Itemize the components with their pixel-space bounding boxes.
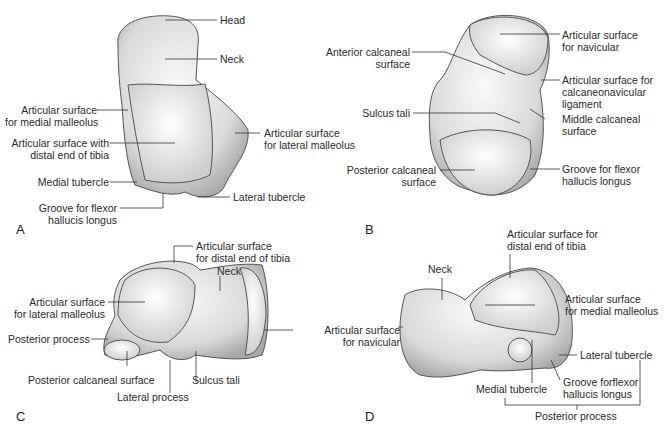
bone-view-a xyxy=(118,16,248,197)
label-d-posterior-process: Posterior process xyxy=(535,410,617,422)
label-sulcus-tali: Sulcus tali xyxy=(310,107,410,119)
label-calcaneonavicular: Articular surface for calcaneonavicular … xyxy=(562,74,653,110)
talus-diagram: A B C D Head Neck Articular surface for … xyxy=(0,0,664,436)
panel-label-d: D xyxy=(365,409,374,424)
label-d-groove-flexor: Groove forflexor hallucis longus xyxy=(563,376,638,400)
label-c-posterior-process: Posterior process xyxy=(8,333,90,345)
bone-view-d xyxy=(400,268,572,377)
label-articular-medial-malleolus: Articular surface for medial malleolus xyxy=(5,104,97,128)
label-c-articular-tibia: Articular surface for distal end of tibi… xyxy=(196,240,290,264)
bone-view-c xyxy=(104,261,268,360)
label-groove-flexor-hallucis: Groove for flexor hallucis longus xyxy=(5,202,117,226)
label-medial-tubercle: Medial tubercle xyxy=(5,176,109,188)
label-d-neck: Neck xyxy=(428,263,452,275)
label-middle-calcaneal: Middle calcaneal surface xyxy=(562,113,640,137)
label-d-articular-medial-malleolus: Articular surface for medial malleolus xyxy=(565,293,658,317)
label-articular-lateral-malleolus: Articular surface for lateral malleolus xyxy=(264,127,355,151)
panel-label-b: B xyxy=(365,222,374,237)
label-c-neck: Neck xyxy=(217,265,241,277)
label-d-lateral-tubercle: Lateral tubercle xyxy=(580,349,652,361)
label-lateral-tubercle: Lateral tubercle xyxy=(233,191,305,203)
label-d-medial-tubercle: Medial tubercle xyxy=(476,383,547,395)
label-articular-navicular: Articular surface for navicular xyxy=(562,29,638,53)
bone-view-b xyxy=(429,15,549,195)
label-articular-navicular-cd: Articular surface for navicular xyxy=(290,324,400,348)
label-c-lateral-process: Lateral process xyxy=(117,391,189,403)
label-c-articular-lateral-malleolus: Articular surface for lateral malleolus xyxy=(5,296,105,320)
label-groove-flexor-b: Groove for flexor hallucis longus xyxy=(562,163,640,187)
label-neck: Neck xyxy=(220,53,244,65)
label-c-sulcus-tali: Sulcus tali xyxy=(192,374,240,386)
label-anterior-calcaneal: Anterior calcaneal surface xyxy=(310,46,410,70)
label-articular-distal-tibia: Articular surface with distal end of tib… xyxy=(5,137,109,161)
label-head: Head xyxy=(220,14,245,26)
label-c-posterior-calcaneal: Posterior calcaneal surface xyxy=(28,374,155,386)
panel-label-c: C xyxy=(16,409,25,424)
label-posterior-calcaneal: Posterior calcaneal surface xyxy=(310,164,436,188)
label-d-articular-tibia: Articular surface for distal end of tibi… xyxy=(507,228,598,252)
